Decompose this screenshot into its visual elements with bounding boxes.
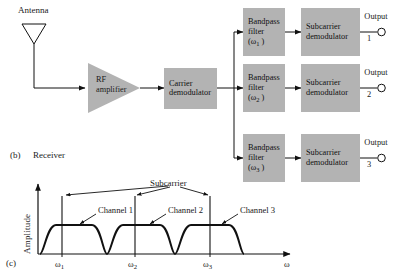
x-tick-omega-1: ω1 (55, 259, 64, 270)
output-number-1: 1 (356, 34, 382, 43)
subcarrier-demod-3-line2: demodulator (306, 158, 348, 167)
rf-amplifier-line2: amplifier (96, 85, 126, 94)
caption-panel-c: (c) (6, 258, 16, 268)
spectrum-x-axis-label: ω (284, 259, 290, 269)
bandpass-1-line2: filter (248, 27, 264, 36)
spectrum-y-axis-label: Amplitude (22, 214, 32, 254)
channel-leader-lines (80, 214, 238, 224)
subcarrier-demod-2-line1: Subcarrier (306, 78, 341, 87)
caption-c-tag: (c) (6, 258, 16, 268)
bandpass-2-omega: (ω2 ) (248, 93, 264, 102)
channel-2-label: Channel 2 (168, 205, 203, 215)
rf-amplifier-label: RF amplifier (96, 75, 126, 95)
bandpass-2-line1: Bandpass (248, 73, 280, 82)
bandpass-3-line1: Bandpass (248, 143, 280, 152)
output-label-1: Output (356, 12, 396, 21)
output-label-2: Output (356, 68, 396, 77)
block-bandpass-filter-1: Bandpass filter (ω1 ) (243, 8, 285, 56)
subcarrier-demod-3-line1: Subcarrier (306, 148, 341, 157)
subcarrier-demod-1-line1: Subcarrier (306, 22, 341, 31)
subcarrier-demod-2-line2: demodulator (306, 88, 348, 97)
x-tick-omega-2: ω2 (128, 259, 137, 270)
caption-panel-b: (b) Receiver (10, 150, 65, 160)
subcarrier-demod-1-line2: demodulator (306, 32, 348, 41)
output-number-3: 3 (356, 160, 382, 169)
figure-receiver-and-spectrum: Antenna RF amplifier Carrier demodulator… (0, 0, 402, 280)
block-bandpass-filter-2: Bandpass filter (ω2 ) (243, 64, 285, 112)
caption-b-tag: (b) (10, 150, 21, 160)
block-carrier-demodulator: Carrier demodulator (164, 68, 217, 109)
antenna-label: Antenna (18, 6, 49, 15)
bandpass-3-line2: filter (248, 153, 264, 162)
caption-b-title: Receiver (33, 150, 65, 160)
output-number-2: 2 (356, 90, 382, 99)
output-label-3: Output (356, 138, 396, 147)
channel-1-label: Channel 1 (98, 205, 133, 215)
carrier-demodulator-line2: demodulator (169, 89, 211, 98)
carrier-demodulator-line1: Carrier (169, 79, 193, 88)
bandpass-2-line2: filter (248, 83, 264, 92)
block-subcarrier-demodulator-1: Subcarrier demodulator (301, 8, 360, 56)
bandpass-1-line1: Bandpass (248, 17, 280, 26)
channel-spectrum-envelope (40, 225, 244, 254)
channel-3-label: Channel 3 (240, 205, 275, 215)
rf-amplifier-line1: RF (96, 75, 106, 84)
subcarrier-annotation-label: Subcarrier (150, 179, 187, 188)
antenna-icon (22, 24, 76, 88)
x-tick-omega-3: ω3 (203, 259, 212, 270)
bandpass-1-omega: (ω1 ) (248, 37, 264, 46)
block-subcarrier-demodulator-2: Subcarrier demodulator (301, 64, 360, 112)
